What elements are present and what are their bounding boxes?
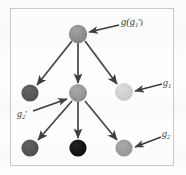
- label-root-main: g(g: [121, 16, 135, 27]
- label-g2-prime: g2': [17, 109, 27, 119]
- node-bottom-center[interactable]: [69, 139, 86, 156]
- label-root-sub: 1: [135, 21, 138, 28]
- figure-container: g(g1') g1 g2' g2: [0, 0, 186, 175]
- node-link-graph: [0, 0, 186, 175]
- label-root-node: g(g1'): [121, 17, 143, 28]
- annotation-arrow-g2: [135, 137, 161, 147]
- node-root[interactable]: [69, 25, 87, 43]
- node-mid-left[interactable]: [21, 84, 38, 101]
- label-g2-prime-mark: ': [25, 109, 27, 119]
- annotation-arrow-g1: [135, 84, 162, 91]
- annotation-arrow-g2-prime: [33, 99, 67, 111]
- annotation-arrow-root: [89, 25, 119, 32]
- node-bottom-right[interactable]: [115, 139, 132, 156]
- label-g1-sub: 1: [168, 82, 171, 89]
- edge-root-to-mid-left: [37, 41, 72, 85]
- node-mid-center[interactable]: [69, 84, 87, 102]
- label-root-prime: '): [138, 17, 143, 27]
- label-g2-sub: 2: [167, 133, 170, 140]
- node-mid-right[interactable]: [115, 83, 133, 101]
- edge-root-to-mid-right: [85, 41, 117, 84]
- node-bottom-left[interactable]: [21, 139, 38, 156]
- edge-mid-to-bottom-right: [85, 101, 117, 140]
- label-g1: g1: [163, 78, 171, 88]
- label-g2-prime-sub: 2: [22, 113, 25, 120]
- label-g2: g2: [162, 129, 170, 139]
